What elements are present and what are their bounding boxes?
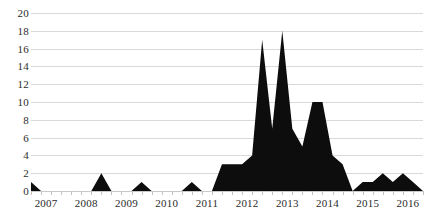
x-tick: [373, 191, 374, 195]
y-tick-label-8: 8: [23, 114, 29, 125]
x-tick: [232, 191, 233, 195]
x-tick: [383, 191, 384, 195]
x-tick-label-2010: 2010: [155, 197, 178, 210]
y-tick-label-2: 2: [23, 168, 29, 179]
x-tick: [81, 191, 82, 195]
y-tick-label-18: 18: [18, 25, 29, 36]
x-tick: [142, 191, 143, 195]
x-tick: [262, 191, 263, 195]
x-tick: [252, 191, 253, 195]
x-tick-label-2015: 2015: [356, 197, 379, 210]
x-tick-label-2012: 2012: [236, 197, 259, 210]
x-tick: [333, 191, 334, 195]
x-tick: [182, 191, 183, 195]
x-tick: [132, 191, 133, 195]
x-tick: [393, 191, 394, 195]
x-tick: [152, 191, 153, 195]
x-tick-label-2014: 2014: [316, 197, 339, 210]
y-tick-label-4: 4: [23, 150, 29, 161]
y-tick-label-10: 10: [18, 97, 29, 108]
x-tick: [192, 191, 193, 195]
x-tick: [202, 191, 203, 195]
x-tick-label-2007: 2007: [35, 197, 58, 210]
x-tick: [403, 191, 404, 195]
x-tick: [111, 191, 112, 195]
x-tick: [51, 191, 52, 195]
x-tick: [91, 191, 92, 195]
x-tick: [121, 191, 122, 195]
x-tick: [312, 191, 313, 195]
x-tick: [413, 191, 414, 195]
y-tick-label-12: 12: [18, 79, 29, 90]
x-tick: [212, 191, 213, 195]
x-tick-label-2009: 2009: [115, 197, 138, 210]
x-tick: [282, 191, 283, 195]
plot-area: [31, 13, 423, 191]
y-tick-label-14: 14: [18, 61, 29, 72]
x-tick: [222, 191, 223, 195]
x-tick: [353, 191, 354, 195]
y-axis: 02468101214161820: [0, 13, 29, 191]
x-tick: [71, 191, 72, 195]
area-chart: 02468101214161820 2007200820092010201120…: [0, 0, 429, 223]
x-tick: [61, 191, 62, 195]
x-tick: [172, 191, 173, 195]
x-tick: [302, 191, 303, 195]
x-tick: [322, 191, 323, 195]
x-tick: [423, 191, 424, 195]
x-tick: [101, 191, 102, 195]
y-tick-label-20: 20: [18, 8, 29, 19]
x-tick: [31, 191, 32, 195]
x-tick: [363, 191, 364, 195]
x-tick-label-2011: 2011: [196, 197, 218, 210]
x-tick: [41, 191, 42, 195]
y-tick-label-6: 6: [23, 132, 29, 143]
x-tick: [242, 191, 243, 195]
x-tick: [343, 191, 344, 195]
series-area-count: [31, 13, 423, 191]
y-tick-label-16: 16: [18, 43, 29, 54]
x-tick-label-2013: 2013: [276, 197, 299, 210]
x-tick-label-2016: 2016: [397, 197, 420, 210]
x-tick: [292, 191, 293, 195]
x-tick: [162, 191, 163, 195]
x-axis: 2007200820092010201120122013201420152016: [31, 191, 423, 223]
y-tick-label-0: 0: [23, 186, 29, 197]
x-axis-ticks: [31, 191, 423, 195]
x-tick-label-2008: 2008: [75, 197, 98, 210]
x-tick: [272, 191, 273, 195]
